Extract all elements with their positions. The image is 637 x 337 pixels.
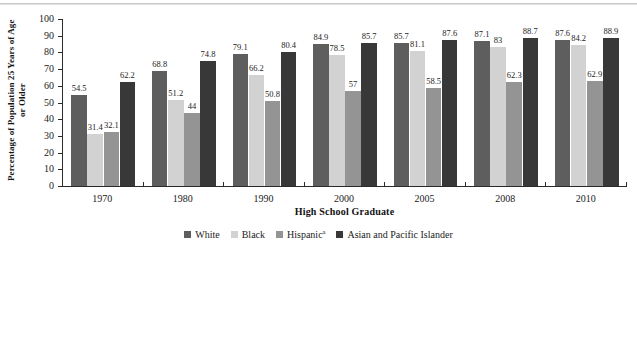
- bar: [71, 95, 87, 186]
- y-axis-tick-label: 50: [28, 98, 54, 108]
- bar: [474, 41, 490, 186]
- legend-label-white: White: [195, 229, 219, 240]
- bar: [313, 44, 329, 186]
- y-axis-tick-mark: [58, 52, 62, 53]
- bar: [587, 81, 603, 186]
- y-axis-tick-mark: [58, 119, 62, 120]
- x-axis-tick-label: 1990: [223, 193, 304, 204]
- bar-value-label: 88.9: [598, 27, 624, 36]
- y-axis-tick-mark: [58, 36, 62, 37]
- bar: [571, 45, 587, 186]
- bar-value-label: 80.4: [276, 41, 302, 50]
- bar: [523, 38, 539, 186]
- y-axis-title: Percentage of Population 25 Years of Age…: [6, 14, 30, 186]
- bar-value-label: 87.6: [437, 29, 463, 38]
- x-axis-tick-label: 2008: [465, 193, 546, 204]
- bar: [265, 101, 281, 186]
- bar: [426, 88, 442, 186]
- legend-swatch-white: [184, 231, 191, 238]
- bar-value-label: 78.5: [324, 44, 350, 53]
- y-axis-tick-label: 0: [28, 181, 54, 191]
- legend-label-hispanic: Hispanica: [287, 229, 325, 240]
- bar-value-label: 66.2: [244, 64, 270, 73]
- bar: [168, 100, 184, 186]
- y-axis-tick-mark: [58, 186, 62, 187]
- legend-item-white: White: [184, 229, 219, 240]
- bar-value-label: 62.2: [115, 71, 141, 80]
- bar-value-label: 51.2: [163, 89, 189, 98]
- bar: [281, 52, 297, 186]
- bar: [104, 132, 120, 186]
- legend-label-hispanic-footnote: a: [323, 228, 326, 235]
- x-axis-tick-label: 2000: [304, 193, 385, 204]
- bar: [329, 55, 345, 186]
- legend-label-asian-pacific-islander: Asian and Pacific Islander: [347, 229, 452, 240]
- bar: [394, 43, 410, 186]
- bar: [184, 113, 200, 186]
- bar-value-label: 54.5: [66, 84, 92, 93]
- bar: [506, 82, 522, 186]
- x-axis-tick-label: 1970: [62, 193, 143, 204]
- legend-item-hispanic: Hispanica: [276, 229, 325, 240]
- x-axis-tick-mark: [223, 182, 224, 187]
- y-axis-tick-label: 70: [28, 64, 54, 74]
- bar: [361, 43, 377, 186]
- y-axis-tick-label: 80: [28, 47, 54, 57]
- x-axis-tick-label: 1980: [143, 193, 224, 204]
- bar: [120, 82, 136, 186]
- legend-item-asian-pacific-islander: Asian and Pacific Islander: [336, 229, 452, 240]
- bar-value-label: 85.7: [356, 32, 382, 41]
- y-axis-tick-mark: [58, 153, 62, 154]
- bar: [87, 134, 103, 186]
- x-axis-tick-label: 2010: [545, 193, 626, 204]
- x-axis-right-cap: [626, 182, 627, 187]
- y-axis-tick-mark: [58, 103, 62, 104]
- y-axis-tick-mark: [58, 169, 62, 170]
- bar-value-label: 74.8: [195, 50, 221, 59]
- x-axis-tick-mark: [545, 182, 546, 187]
- bar-value-label: 88.7: [518, 27, 544, 36]
- bar: [200, 61, 216, 186]
- bar-value-label: 79.1: [228, 43, 254, 52]
- y-axis-tick-mark: [58, 86, 62, 87]
- bar: [442, 40, 458, 186]
- y-axis-tick-label: 90: [28, 31, 54, 41]
- bar: [233, 54, 249, 186]
- bar-value-label: 68.8: [147, 60, 173, 69]
- y-axis-tick-label: 30: [28, 131, 54, 141]
- chart-lower-cropped: ...tion 25 Years ...lder 10090807060 83.…: [0, 255, 637, 337]
- y-axis-tick-mark: [58, 19, 62, 20]
- legend-swatch-hispanic: [276, 231, 283, 238]
- bar-value-label: 83: [485, 36, 511, 45]
- chart-high-school-graduate: Percentage of Population 25 Years of Age…: [0, 0, 637, 215]
- y-axis-tick-mark: [58, 69, 62, 70]
- legend-swatch-black: [231, 231, 238, 238]
- legend-label-black: Black: [242, 229, 265, 240]
- x-axis-tick-label: 2005: [384, 193, 465, 204]
- y-axis-tick-label: 60: [28, 81, 54, 91]
- bar: [555, 40, 571, 186]
- legend-label-hispanic-text: Hispanic: [287, 229, 323, 240]
- x-axis-tick-mark: [304, 182, 305, 187]
- y-axis-tick-label: 20: [28, 148, 54, 158]
- bar: [603, 38, 619, 186]
- y-axis-tick-label: 100: [28, 14, 54, 24]
- x-axis-tick-mark: [384, 182, 385, 187]
- legend-swatch-asian-pacific-islander: [336, 231, 343, 238]
- x-axis-line: [62, 186, 627, 187]
- x-axis-title: High School Graduate: [62, 206, 627, 217]
- y-axis-line: [62, 19, 63, 187]
- bar: [152, 71, 168, 186]
- legend-item-black: Black: [231, 229, 265, 240]
- bar-value-label: 81.1: [405, 40, 431, 49]
- x-axis-tick-mark: [143, 182, 144, 187]
- bar-value-label: 84.2: [566, 34, 592, 43]
- x-axis-tick-mark: [465, 182, 466, 187]
- bar: [490, 47, 506, 186]
- y-axis-tick-label: 10: [28, 164, 54, 174]
- y-axis-tick-mark: [58, 136, 62, 137]
- bar-value-label: 84.9: [308, 33, 334, 42]
- y-axis-tick-label: 40: [28, 114, 54, 124]
- chart-legend: White Black Hispanica Asian and Pacific …: [0, 229, 637, 240]
- bar: [345, 91, 361, 186]
